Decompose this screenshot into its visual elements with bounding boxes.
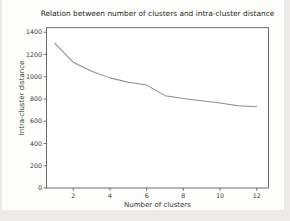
cluster-distance-chart: 0200400600800100012001400 24681012 Relat… bbox=[0, 0, 290, 221]
y-tick-label: 0 bbox=[38, 184, 42, 191]
y-tick-label: 600 bbox=[30, 117, 42, 124]
y-tick-label: 1000 bbox=[26, 73, 42, 80]
y-tick-label: 1200 bbox=[26, 51, 42, 58]
x-tick-label: 6 bbox=[145, 192, 149, 199]
x-axis-label: Number of clusters bbox=[124, 201, 191, 209]
x-tick-label: 8 bbox=[181, 192, 185, 199]
y-axis-label: Intra-cluster distance bbox=[18, 61, 26, 136]
screenshot-root: 0200400600800100012001400 24681012 Relat… bbox=[0, 0, 290, 221]
y-tick-label: 200 bbox=[30, 162, 42, 169]
x-tick-label: 12 bbox=[253, 192, 261, 199]
x-axis-ticks: 24681012 bbox=[71, 188, 260, 199]
x-tick-label: 4 bbox=[108, 192, 112, 199]
x-tick-label: 10 bbox=[216, 192, 224, 199]
y-tick-label: 400 bbox=[30, 140, 42, 147]
plot-area bbox=[47, 28, 269, 188]
y-tick-label: 800 bbox=[30, 95, 42, 102]
chart-title: Relation between number of clusters and … bbox=[41, 9, 275, 18]
y-tick-label: 1400 bbox=[26, 28, 42, 35]
x-tick-label: 2 bbox=[71, 192, 75, 199]
y-axis-ticks: 0200400600800100012001400 bbox=[26, 28, 47, 191]
